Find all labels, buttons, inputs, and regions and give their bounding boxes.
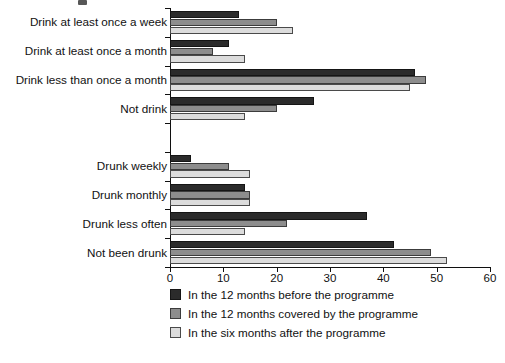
legend-swatch-icon: [170, 308, 181, 319]
chart-legend: In the 12 months before the programmeIn …: [170, 285, 500, 342]
category-label: Drink less than once a month: [16, 73, 167, 86]
x-axis-tick-label: 10: [208, 272, 238, 285]
x-axis-tick-label: 60: [475, 272, 505, 285]
bar: [170, 199, 250, 206]
category-label: Drink at least once a week: [30, 15, 167, 28]
legend-item: In the 12 months before the programme: [170, 285, 500, 304]
bar: [170, 212, 367, 219]
x-axis-tick-label: 0: [155, 272, 185, 285]
category-label: Drunk less often: [83, 217, 167, 230]
x-axis-tick-label: 40: [368, 272, 398, 285]
bar: [170, 170, 250, 177]
y-axis-tick: [165, 66, 170, 67]
category-label: Drunk monthly: [92, 188, 167, 201]
plot-area: [170, 8, 490, 267]
legend-item: In the 12 months covered by the programm…: [170, 304, 500, 323]
bar: [170, 228, 245, 235]
y-axis-tick: [165, 238, 170, 239]
bar: [170, 191, 250, 198]
y-axis-tick: [165, 8, 170, 9]
y-axis-tick: [165, 37, 170, 38]
bar: [170, 113, 245, 120]
bar: [170, 84, 410, 91]
bar: [170, 69, 415, 76]
category-label: Drink at least once a month: [25, 44, 167, 57]
legend-label: In the 12 months covered by the programm…: [188, 307, 418, 320]
bar: [170, 97, 314, 104]
bar: [170, 105, 277, 112]
bar: [170, 249, 431, 256]
y-axis-tick: [165, 94, 170, 95]
bar: [170, 48, 213, 55]
category-label: Not drink: [120, 102, 167, 115]
bar-chart: Drink at least once a weekDrink at least…: [0, 0, 505, 363]
bar: [170, 27, 293, 34]
category-label: Not been drunk: [87, 246, 167, 259]
x-axis-tick-label: 50: [422, 272, 452, 285]
bar: [170, 40, 229, 47]
y-axis-tick: [165, 209, 170, 210]
bar: [170, 55, 245, 62]
bar: [170, 11, 239, 18]
category-label: Drunk weekly: [97, 159, 167, 172]
scan-artifact: [78, 0, 87, 5]
bar: [170, 163, 229, 170]
x-axis-tick-label: 30: [315, 272, 345, 285]
y-axis-tick: [165, 181, 170, 182]
legend-item: In the six months after the programme: [170, 323, 500, 342]
bar: [170, 257, 447, 264]
bar: [170, 155, 191, 162]
bar: [170, 241, 394, 248]
legend-label: In the six months after the programme: [188, 326, 385, 339]
bar: [170, 76, 426, 83]
x-axis-tick-label: 20: [262, 272, 292, 285]
y-axis-tick: [165, 123, 170, 124]
legend-swatch-icon: [170, 327, 181, 338]
bar: [170, 19, 277, 26]
bar: [170, 184, 245, 191]
legend-swatch-icon: [170, 289, 181, 300]
y-axis-tick: [165, 152, 170, 153]
legend-label: In the 12 months before the programme: [188, 288, 394, 301]
bar: [170, 220, 287, 227]
